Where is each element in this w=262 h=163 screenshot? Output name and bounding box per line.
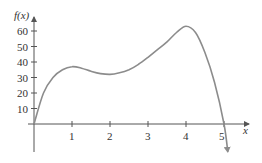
x-axis: 12345 x: [28, 121, 249, 142]
function-curve: [34, 26, 228, 152]
y-tick-label: 50: [17, 41, 29, 53]
plot-area: [34, 26, 228, 152]
x-tick-label: 2: [107, 130, 113, 142]
y-tick-label: 40: [17, 56, 29, 68]
y-tick-label: 30: [17, 72, 29, 84]
x-tick-label: 3: [145, 130, 151, 142]
y-tick-label: 20: [17, 87, 29, 99]
function-graph: 12345 x 102030405060 f(x): [0, 0, 262, 163]
y-axis-label: f(x): [14, 9, 30, 22]
x-tick-label: 1: [69, 130, 75, 142]
y-axis: 102030405060 f(x): [14, 9, 37, 152]
x-tick-label: 4: [183, 130, 189, 142]
x-axis-label: x: [242, 124, 248, 136]
y-tick-label: 10: [17, 103, 29, 115]
y-tick-label: 60: [17, 25, 29, 37]
x-tick-label: 5: [219, 130, 225, 142]
